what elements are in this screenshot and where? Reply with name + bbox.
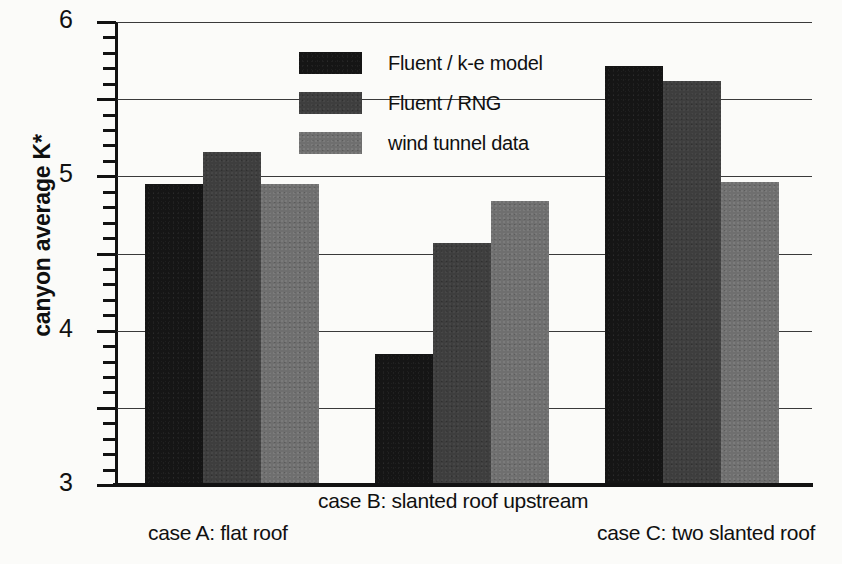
bar <box>145 184 203 483</box>
y-tick-minor <box>103 268 116 271</box>
y-tick-minor <box>103 114 116 117</box>
y-tick-minor <box>103 438 116 441</box>
y-tick-minor <box>103 129 116 132</box>
y-tick-major: 1 <box>97 407 116 410</box>
y-tick-minor <box>103 237 116 240</box>
x-axis-line <box>113 483 813 487</box>
y-tick-minor <box>103 206 116 209</box>
y-tick-minor <box>103 160 116 163</box>
legend-item: wind tunnel data <box>299 126 543 160</box>
y-tick-major: 0 <box>97 484 116 487</box>
y-tick-label: 3 <box>59 470 73 495</box>
bar <box>433 243 491 483</box>
y-tick-minor <box>103 391 116 394</box>
category-label-case-a: case A: flat roof <box>148 521 288 545</box>
y-tick-minor <box>103 222 116 225</box>
bar <box>375 354 433 483</box>
legend-swatch-icon <box>299 92 362 114</box>
y-tick-minor <box>103 376 116 379</box>
y-axis-title: canyon average K* <box>29 86 56 386</box>
bar <box>261 184 319 483</box>
bar <box>721 182 779 483</box>
y-tick-minor <box>103 83 116 86</box>
y-tick-minor <box>103 469 116 472</box>
y-tick-minor <box>103 422 116 425</box>
legend-item: Fluent / k-e model <box>299 46 543 80</box>
y-tick-minor <box>103 191 116 194</box>
chart-legend: Fluent / k-e modelFluent / RNGwind tunne… <box>299 46 543 166</box>
bar <box>491 201 549 483</box>
y-tick-major: 2 <box>97 330 116 333</box>
legend-label: Fluent / k-e model <box>388 52 543 75</box>
y-tick-minor <box>103 345 116 348</box>
y-tick-label: 5 <box>59 161 73 186</box>
y-tick-major: 4 <box>97 175 116 178</box>
bar <box>663 81 721 483</box>
y-tick-major: 6 <box>97 21 116 24</box>
y-tick-minor <box>103 36 116 39</box>
y-tick-major: 5 <box>97 98 116 101</box>
y-tick-minor <box>103 299 116 302</box>
y-tick-minor <box>103 144 116 147</box>
legend-swatch-icon <box>299 132 362 154</box>
legend-label: wind tunnel data <box>388 132 529 155</box>
y-tick-minor <box>103 361 116 364</box>
legend-label: Fluent / RNG <box>388 92 501 115</box>
y-tick-label: 4 <box>59 316 73 341</box>
y-tick-minor <box>103 453 116 456</box>
bar <box>203 152 261 483</box>
y-tick-major: 3 <box>97 253 116 256</box>
y-tick-minor <box>103 283 116 286</box>
y-tick-minor <box>103 52 116 55</box>
legend-item: Fluent / RNG <box>299 86 543 120</box>
y-tick-minor <box>103 67 116 70</box>
bar-chart-figure: canyon average K* 6543210 Fluent / k-e m… <box>0 0 842 564</box>
y-tick-label: 6 <box>59 7 73 32</box>
legend-swatch-icon <box>299 52 362 74</box>
category-label-case-b: case B: slanted roof upstream <box>318 489 588 513</box>
y-tick-minor <box>103 314 116 317</box>
bar <box>605 66 663 483</box>
gridline <box>117 22 812 23</box>
category-label-case-c: case C: two slanted roof <box>597 521 815 545</box>
